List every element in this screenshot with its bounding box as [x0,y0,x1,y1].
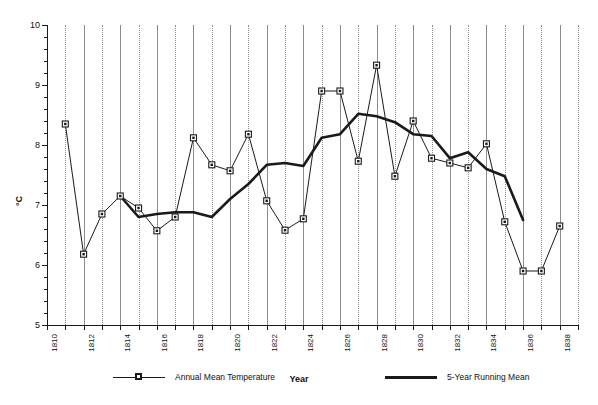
x-tick-1825 [322,325,323,330]
x-tick-1835 [505,325,506,330]
data-point-marker-core [192,137,194,139]
data-point-marker-core [247,133,249,135]
data-point-marker-core [430,157,432,159]
x-tick-1814 [120,325,121,330]
data-point-marker-core [357,160,359,162]
legend-label-annual: Annual Mean Temperature [175,371,275,383]
legend-square-marker-icon [135,373,142,380]
y-tick-label-7: 7 [35,201,40,210]
data-point-marker-core [394,175,396,177]
data-point-marker-core [339,90,341,92]
x-tick-1818 [193,325,194,330]
x-tick-1826 [340,325,341,330]
data-point-marker-core [467,167,469,169]
data-series-layer [47,25,578,325]
data-point-marker-core [449,162,451,164]
legend-line-swatch-running [385,376,437,379]
data-point-marker-core [540,270,542,272]
data-point-marker-core [211,164,213,166]
x-tick-1820 [230,325,231,330]
x-tick-label-1836: 1836 [527,334,535,352]
plot-area: 5678910 18101812181418161818182018221824… [47,25,578,325]
x-tick-1828 [377,325,378,330]
x-tick-1819 [212,325,213,330]
x-tick-1834 [486,325,487,330]
x-tick-1833 [468,325,469,330]
data-point-marker-core [119,195,121,197]
data-point-marker-core [522,270,524,272]
x-tick-label-1810: 1810 [51,334,59,352]
x-tick-label-1814: 1814 [124,334,132,352]
data-point-marker-core [174,216,176,218]
x-tick-label-1826: 1826 [344,334,352,352]
x-tick-1811 [65,325,66,330]
chart-legend: Annual Mean Temperature 5-Year Running M… [0,368,598,390]
data-point-marker-core [101,213,103,215]
x-tick-label-1828: 1828 [381,334,389,352]
x-tick-label-1820: 1820 [234,334,242,352]
y-tick-label-6: 6 [35,261,40,270]
x-tick-1839 [578,325,579,330]
x-tick-label-1834: 1834 [490,334,498,352]
x-tick-label-1824: 1824 [307,334,315,352]
x-tick-label-1838: 1838 [564,334,572,352]
x-tick-1821 [248,325,249,330]
x-tick-1837 [541,325,542,330]
legend-label-running: 5-Year Running Mean [447,371,529,383]
x-tick-1822 [267,325,268,330]
y-axis-title: °C [14,196,24,206]
x-tick-1824 [303,325,304,330]
x-tick-1829 [395,325,396,330]
x-tick-1812 [84,325,85,330]
gridline-1839 [578,25,579,325]
data-point-marker-core [284,229,286,231]
x-tick-1832 [450,325,451,330]
x-tick-1827 [358,325,359,330]
y-tick-label-5: 5 [35,321,40,330]
data-point-marker-core [64,123,66,125]
data-point-marker-core [229,170,231,172]
x-tick-1810 [47,325,48,330]
data-point-marker-core [266,200,268,202]
x-tick-1836 [523,325,524,330]
data-point-marker-core [156,230,158,232]
x-tick-label-1812: 1812 [88,334,96,352]
x-axis-line [47,325,578,326]
x-tick-1838 [560,325,561,330]
data-point-marker-core [137,207,139,209]
x-tick-label-1830: 1830 [417,334,425,352]
x-tick-1813 [102,325,103,330]
data-point-marker-core [485,143,487,145]
x-tick-1823 [285,325,286,330]
x-tick-label-1818: 1818 [197,334,205,352]
data-point-marker-core [412,120,414,122]
x-tick-label-1832: 1832 [454,334,462,352]
y-tick-label-10: 10 [30,21,40,30]
chart-page: °C Year 5678910 181018121814181618181820… [0,0,598,405]
x-tick-1815 [139,325,140,330]
data-point-marker-core [302,218,304,220]
x-tick-1816 [157,325,158,330]
y-tick-label-8: 8 [35,141,40,150]
x-tick-label-1822: 1822 [271,334,279,352]
y-tick-label-9: 9 [35,81,40,90]
x-tick-1817 [175,325,176,330]
data-point-marker-core [504,221,506,223]
data-point-marker-core [320,90,322,92]
data-point-marker-core [558,225,560,227]
x-tick-1830 [413,325,414,330]
running-mean-line [120,114,523,220]
data-point-marker-core [82,253,84,255]
data-point-marker-core [375,64,377,66]
x-tick-label-1816: 1816 [161,334,169,352]
x-tick-1831 [432,325,433,330]
